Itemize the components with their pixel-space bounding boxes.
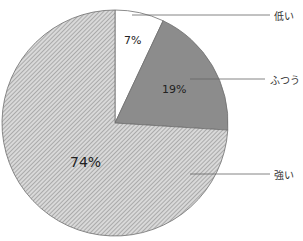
legend-label-strong: 強い xyxy=(274,167,294,182)
percent-label-strong: 74% xyxy=(70,154,101,170)
percent-label-normal: 19% xyxy=(162,83,186,96)
legend-label-normal: ふつう xyxy=(270,72,300,87)
pie-chart xyxy=(0,0,303,241)
legend-label-low: 低い xyxy=(274,8,294,23)
percent-label-low: 7% xyxy=(124,34,141,47)
